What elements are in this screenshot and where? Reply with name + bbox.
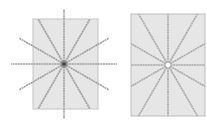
right-center-dot [166,63,170,67]
diagram-canvas [0,0,207,126]
left-center-dot [60,60,68,68]
left-figure [11,9,117,119]
